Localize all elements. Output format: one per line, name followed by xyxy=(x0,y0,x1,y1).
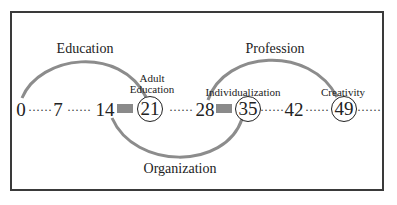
dot-separator: ······ xyxy=(260,104,284,116)
dot-separator: ······ xyxy=(28,104,52,116)
dot-separator: ······ xyxy=(169,104,193,116)
age-35: 35 xyxy=(239,98,258,120)
age-49-circle: 49 xyxy=(331,96,357,122)
dot-separator: ······ xyxy=(357,104,381,116)
organization-arc xyxy=(112,118,242,157)
education-label: Education xyxy=(57,42,114,56)
age-21-circle: 21 xyxy=(137,96,163,122)
age-49: 49 xyxy=(335,98,354,120)
education-arc xyxy=(22,62,146,98)
age-28: 28 xyxy=(196,100,215,119)
organization-label: Organization xyxy=(144,162,217,176)
dot-separator: ······ xyxy=(305,104,329,116)
age-0: 0 xyxy=(16,100,26,119)
age-14: 14 xyxy=(96,100,115,119)
age-35-circle: 35 xyxy=(235,96,261,122)
age-21: 21 xyxy=(141,98,160,120)
transition-marker xyxy=(117,104,133,113)
age-7: 7 xyxy=(53,100,63,119)
adult-education-line2: Education xyxy=(130,83,175,95)
adult-education-label: Adult Education xyxy=(130,73,175,95)
age-42: 42 xyxy=(285,100,304,119)
dot-separator: ······ xyxy=(67,104,91,116)
profession-label: Profession xyxy=(245,42,304,56)
transition-marker xyxy=(216,104,232,113)
